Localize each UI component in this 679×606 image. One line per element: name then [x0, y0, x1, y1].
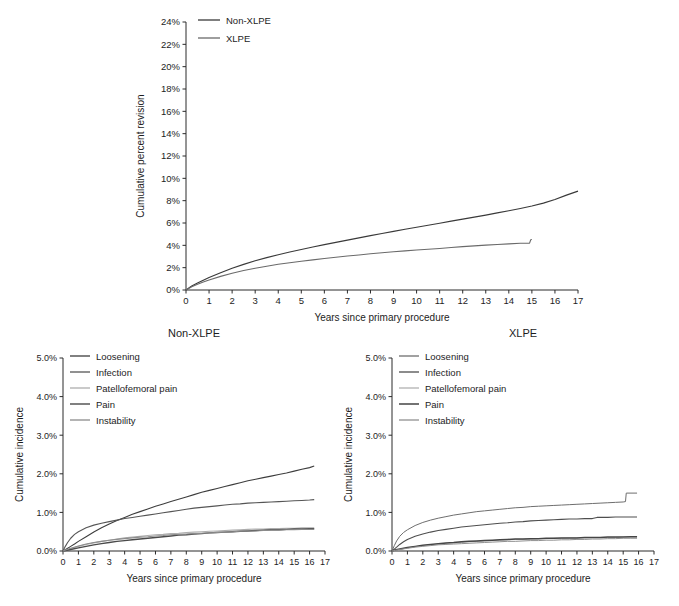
chart-bottom-right: XLPE0.0%1.0%2.0%3.0%4.0%5.0%012345678910…	[343, 327, 659, 584]
figure-svg: 0%2%4%6%8%10%12%14%16%18%20%22%24%012345…	[0, 0, 679, 606]
y-tick-label-top-11: 22%	[161, 39, 181, 50]
y-tick-label-bottom-right-5: 5.0%	[365, 353, 386, 363]
x-tick-label-top-15: 15	[527, 295, 538, 306]
y-tick-label-bottom-right-4: 4.0%	[365, 392, 386, 402]
panel-title-bottom-right: XLPE	[509, 327, 537, 339]
x-tick-label-bottom-right-5: 5	[467, 557, 472, 567]
chart-top: 0%2%4%6%8%10%12%14%16%18%20%22%24%012345…	[135, 15, 583, 324]
series-line-bottom-left-2	[63, 528, 314, 551]
x-tick-label-bottom-right-2: 2	[420, 557, 425, 567]
x-tick-label-bottom-right-14: 14	[603, 557, 613, 567]
x-tick-label-bottom-left-16: 16	[305, 557, 315, 567]
y-tick-label-bottom-right-2: 2.0%	[365, 469, 386, 479]
x-tick-label-bottom-right-0: 0	[389, 557, 394, 567]
x-tick-label-bottom-left-12: 12	[243, 557, 253, 567]
x-tick-label-bottom-right-4: 4	[451, 557, 456, 567]
x-tick-label-bottom-left-6: 6	[153, 557, 158, 567]
x-tick-label-top-7: 7	[345, 295, 350, 306]
legend-label-bottom-right-1: Infection	[425, 367, 461, 378]
y-tick-label-bottom-left-2: 2.0%	[36, 469, 57, 479]
legend-label-bottom-right-0: Loosening	[425, 351, 469, 362]
legend-label-bottom-left-4: Instability	[96, 415, 136, 426]
series-line-top-1	[186, 240, 532, 290]
y-axis-title-top: Cumulative percent revision	[135, 94, 146, 217]
x-tick-label-top-3: 3	[253, 295, 258, 306]
x-tick-label-bottom-right-1: 1	[405, 557, 410, 567]
x-tick-label-bottom-left-10: 10	[212, 557, 222, 567]
figure-root: 0%2%4%6%8%10%12%14%16%18%20%22%24%012345…	[0, 0, 679, 606]
x-tick-label-top-11: 11	[435, 295, 445, 306]
x-tick-label-bottom-right-15: 15	[618, 557, 628, 567]
y-tick-label-bottom-right-1: 1.0%	[365, 508, 386, 518]
chart-bottom-left: Non-XLPE0.0%1.0%2.0%3.0%4.0%5.0%01234567…	[14, 327, 330, 584]
x-tick-label-bottom-left-2: 2	[91, 557, 96, 567]
x-tick-label-bottom-right-17: 17	[649, 557, 659, 567]
y-tick-label-top-10: 20%	[161, 61, 181, 72]
x-tick-label-top-17: 17	[573, 295, 584, 306]
y-tick-label-bottom-left-1: 1.0%	[36, 508, 57, 518]
x-tick-label-top-8: 8	[368, 295, 373, 306]
x-tick-label-bottom-left-4: 4	[122, 557, 127, 567]
x-tick-label-bottom-left-3: 3	[107, 557, 112, 567]
x-tick-label-top-9: 9	[391, 295, 396, 306]
y-tick-label-top-1: 2%	[166, 262, 180, 273]
x-tick-label-top-4: 4	[276, 295, 281, 306]
y-tick-label-bottom-left-5: 5.0%	[36, 353, 57, 363]
y-tick-label-top-9: 18%	[161, 83, 181, 94]
y-tick-label-top-5: 10%	[161, 173, 181, 184]
x-tick-label-top-2: 2	[229, 295, 234, 306]
x-tick-label-top-14: 14	[504, 295, 515, 306]
x-tick-label-bottom-right-9: 9	[528, 557, 533, 567]
x-tick-label-bottom-left-15: 15	[289, 557, 299, 567]
legend-label-bottom-left-1: Infection	[96, 367, 132, 378]
x-tick-label-bottom-left-1: 1	[76, 557, 81, 567]
legend-label-bottom-right-3: Pain	[425, 399, 444, 410]
x-tick-label-top-16: 16	[550, 295, 561, 306]
x-axis-title-top: Years since primary procedure	[314, 312, 450, 323]
x-tick-label-bottom-right-10: 10	[541, 557, 551, 567]
y-tick-label-top-0: 0%	[166, 284, 180, 295]
y-tick-label-top-4: 8%	[166, 195, 180, 206]
x-tick-label-bottom-right-3: 3	[436, 557, 441, 567]
y-tick-label-top-2: 4%	[166, 240, 180, 251]
x-tick-label-bottom-right-13: 13	[587, 557, 597, 567]
y-tick-label-bottom-right-3: 3.0%	[365, 431, 386, 441]
x-tick-label-bottom-right-7: 7	[497, 557, 502, 567]
y-tick-label-bottom-right-0: 0.0%	[365, 546, 386, 556]
x-tick-label-bottom-left-11: 11	[228, 557, 237, 567]
x-tick-label-top-1: 1	[206, 295, 211, 306]
legend-label-top-1: XLPE	[226, 33, 250, 44]
x-tick-label-bottom-left-7: 7	[168, 557, 173, 567]
x-tick-label-bottom-left-5: 5	[138, 557, 143, 567]
x-tick-label-top-5: 5	[299, 295, 304, 306]
x-tick-label-bottom-left-17: 17	[320, 557, 330, 567]
x-tick-label-bottom-right-11: 11	[557, 557, 566, 567]
x-tick-label-bottom-left-14: 14	[274, 557, 284, 567]
x-axis-title-bottom-left: Years since primary procedure	[126, 573, 262, 584]
x-tick-label-top-12: 12	[457, 295, 468, 306]
x-tick-label-bottom-right-16: 16	[634, 557, 644, 567]
y-tick-label-bottom-left-3: 3.0%	[36, 431, 57, 441]
x-axis-title-bottom-right: Years since primary procedure	[455, 573, 591, 584]
panel-title-bottom-left: Non-XLPE	[168, 327, 220, 339]
y-tick-label-top-12: 24%	[161, 16, 181, 27]
x-tick-label-top-10: 10	[411, 295, 422, 306]
y-axis-title-bottom-left: Cumulative incidence	[14, 407, 25, 502]
x-tick-label-bottom-left-8: 8	[184, 557, 189, 567]
legend-label-bottom-left-0: Loosening	[96, 351, 140, 362]
legend-label-top-0: Non-XLPE	[226, 15, 271, 26]
y-tick-label-bottom-left-0: 0.0%	[36, 546, 57, 556]
y-tick-label-top-6: 12%	[161, 150, 181, 161]
legend-label-bottom-right-2: Patellofemoral pain	[425, 383, 506, 394]
legend-label-bottom-right-4: Instability	[425, 415, 465, 426]
x-tick-label-bottom-right-8: 8	[513, 557, 518, 567]
x-tick-label-bottom-right-6: 6	[482, 557, 487, 567]
y-tick-label-top-3: 6%	[166, 217, 180, 228]
x-tick-label-bottom-left-0: 0	[60, 557, 65, 567]
x-tick-label-bottom-left-9: 9	[199, 557, 204, 567]
x-tick-label-top-0: 0	[183, 295, 188, 306]
legend-label-bottom-left-3: Pain	[96, 399, 115, 410]
x-tick-label-bottom-left-13: 13	[258, 557, 268, 567]
legend-label-bottom-left-2: Patellofemoral pain	[96, 383, 177, 394]
y-tick-label-top-7: 14%	[161, 128, 181, 139]
